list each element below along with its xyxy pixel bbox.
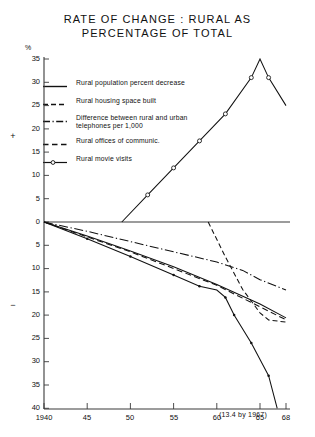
- y-tick-label-n5: 5: [18, 241, 40, 249]
- series-telephone-difference: [44, 222, 286, 290]
- x-tick-label-1940: 1940: [30, 414, 58, 422]
- y-tick-label-p5: 5: [18, 195, 40, 203]
- y-tick-label-n15: 15: [18, 288, 40, 296]
- x-tick-label-50: 50: [120, 414, 140, 422]
- plot-area: [0, 0, 315, 437]
- y-axis-ticks-negative: [44, 245, 49, 408]
- x-tick-label-68: 68: [276, 414, 296, 422]
- y-tick-label-p10: 10: [18, 171, 40, 179]
- x-tick-label-65: 65: [250, 414, 270, 422]
- y-tick-label-p35: 35: [18, 55, 40, 63]
- y-tick-label-n20: 20: [18, 311, 40, 319]
- y-tick-label-zero: 0: [18, 218, 40, 226]
- series-rural-housing: [208, 222, 286, 322]
- y-tick-label-p15: 15: [18, 148, 40, 156]
- y-tick-label-n40: 40: [18, 404, 40, 412]
- x-tick-label-45: 45: [77, 414, 97, 422]
- y-tick-label-p20: 20: [18, 125, 40, 133]
- series-rural-movie-visits-upper: [122, 59, 286, 222]
- y-tick-label-p25: 25: [18, 101, 40, 109]
- y-tick-label-n30: 30: [18, 357, 40, 365]
- y-tick-label-p30: 30: [18, 78, 40, 86]
- x-tick-label-55: 55: [164, 414, 184, 422]
- y-tick-label-n25: 25: [18, 334, 40, 342]
- x-axis-ticks: [44, 403, 286, 409]
- y-tick-label-n35: 35: [18, 381, 40, 389]
- y-tick-label-n10: 10: [18, 264, 40, 272]
- series-rural-movie-visits-lower: [44, 222, 277, 408]
- y-axis-ticks-positive: [44, 59, 49, 222]
- chart-figure: RATE OF CHANGE : RURAL AS PERCENTAGE OF …: [0, 0, 315, 437]
- x-tick-label-60: 60: [207, 414, 227, 422]
